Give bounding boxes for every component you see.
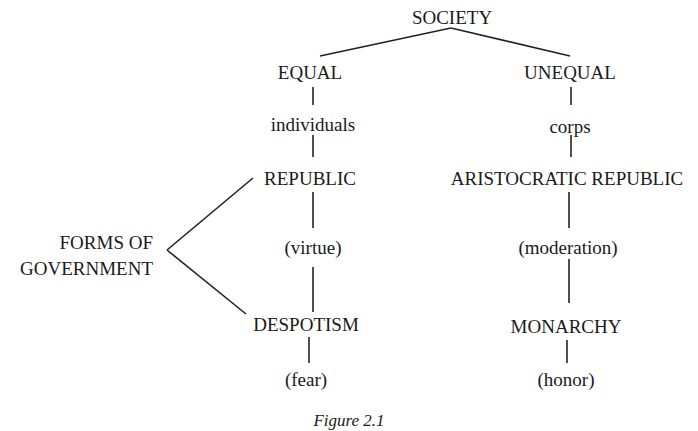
node-despotism: DESPOTISM [253, 315, 359, 334]
node-individuals: individuals [271, 115, 355, 134]
node-aristocratic-republic: ARISTOCRATIC REPUBLIC [451, 169, 683, 188]
forms-of-government-line2: GOVERNMENT [20, 259, 153, 278]
forms-of-government-line1: FORMS OF [60, 233, 153, 252]
node-society: SOCIETY [412, 8, 492, 27]
node-equal: EQUAL [278, 63, 342, 82]
figure-caption: Figure 2.1 [313, 411, 384, 431]
node-corps: corps [549, 117, 590, 136]
node-monarchy: MONARCHY [511, 317, 622, 336]
node-virtue: (virtue) [285, 238, 342, 257]
node-fear: (fear) [285, 370, 327, 389]
node-unequal: UNEQUAL [524, 63, 616, 82]
node-republic: REPUBLIC [264, 169, 356, 188]
node-moderation: (moderation) [518, 238, 617, 257]
node-honor: (honor) [538, 370, 595, 389]
